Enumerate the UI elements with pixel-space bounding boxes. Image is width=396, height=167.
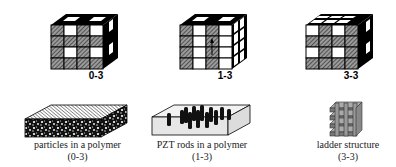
cube-0-3	[51, 14, 118, 69]
cube-1-3	[180, 14, 247, 69]
cube-label-0-3: 0-3	[76, 70, 116, 81]
caption-line-2: (1-3)	[146, 151, 258, 163]
caption-line-1: particles in a polymer	[20, 139, 135, 151]
caption-line-2: (0-3)	[20, 151, 135, 163]
particles-in-polymer-slab	[25, 105, 127, 137]
cube-label-1-3: 1-3	[205, 70, 245, 81]
caption-line-1: PZT rods in a polymer	[146, 139, 258, 151]
caption-particles-in-polymer: particles in a polymer (0-3)	[20, 139, 135, 163]
ladder-structure	[330, 102, 362, 136]
cube-label-3-3: 3-3	[331, 70, 371, 81]
caption-line-1: ladder structure	[300, 139, 396, 151]
pzt-rods-slab	[152, 105, 250, 135]
caption-line-2: (3-3)	[300, 151, 396, 163]
caption-pzt-rods: PZT rods in a polymer (1-3)	[146, 139, 258, 163]
cube-3-3	[306, 14, 373, 69]
caption-ladder-structure: ladder structure (3-3)	[300, 139, 396, 163]
